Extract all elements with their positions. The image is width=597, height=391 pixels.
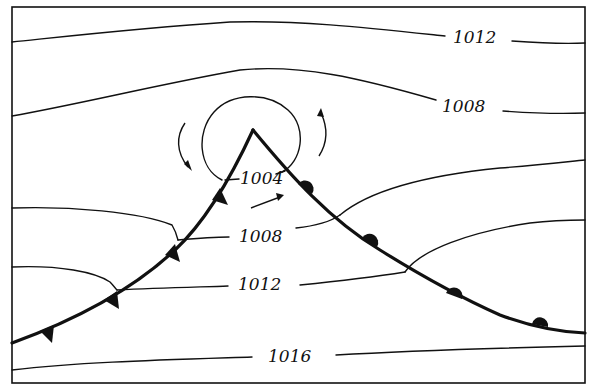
- cold-front-triangle-icon: [104, 291, 119, 309]
- isobar-label-1008-upper: 1008: [442, 96, 485, 116]
- isobar-1012-top: [12, 22, 445, 42]
- arrowhead-left-icon: [184, 160, 192, 171]
- isobar-1012-top-right: [512, 41, 585, 43]
- isobar-1016-right: [336, 346, 585, 355]
- circulation-arrow-left: [179, 123, 188, 167]
- arrowhead-right-icon: [317, 108, 324, 117]
- isobar-1012-sector-right: [300, 272, 405, 285]
- cold-front-line: [12, 130, 253, 343]
- warm-front-semicircles: [298, 180, 548, 327]
- isobar-label-1012-sector: 1012: [238, 274, 281, 294]
- isobar-1008-upper-right: [503, 111, 585, 113]
- circulation-arrow-right: [319, 113, 326, 156]
- isobar-label-1004: 1004: [240, 168, 283, 188]
- isobar-1012-sector-left: [117, 286, 228, 290]
- isobar-1008-upper: [12, 69, 436, 116]
- isobar-1016-left: [12, 357, 252, 370]
- weather-map-diagram: 1012 1008 1004 1008 1012 1016: [0, 0, 597, 391]
- isobar-1012-right: [405, 220, 585, 272]
- isobar-label-1012-top: 1012: [453, 27, 496, 47]
- isobar-label-1008-sector: 1008: [239, 226, 282, 246]
- isobar-1008-right: [340, 160, 585, 215]
- arrowhead-warm-sector-icon: [276, 193, 284, 201]
- map-border: [12, 7, 585, 383]
- isobar-1008-left: [12, 208, 178, 240]
- isobar-label-1016: 1016: [268, 346, 311, 366]
- warm-front-line: [253, 130, 585, 333]
- warm-sector-flow-arrow: [251, 197, 280, 208]
- isobar-1012-left: [12, 267, 117, 290]
